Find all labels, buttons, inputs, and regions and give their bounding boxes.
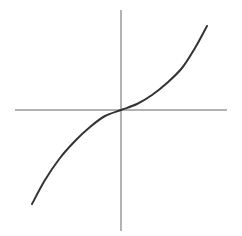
cubic-curve [32,26,207,204]
cubic-function-plot [0,0,242,236]
